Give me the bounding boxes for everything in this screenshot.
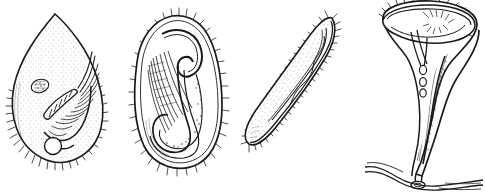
figure-hooked-ciliate: hooked-ciliate: [120, 0, 240, 192]
vacuole-chain: [419, 65, 426, 97]
contractile-vacuole: [45, 138, 62, 155]
trumpet-body-left-contour: [383, 20, 420, 176]
figure-teardrop-ciliate: teardrop-ciliate: [0, 0, 120, 192]
cell-body-outline: [245, 18, 335, 145]
figure-stalked-trumpet-ciliate: stalked-trumpet-ciliate: [365, 0, 485, 192]
illustration-plate: teardrop-ciliate: [0, 0, 485, 192]
figure-elongate-worm-ciliate: elongate-worm-ciliate: [240, 0, 360, 192]
